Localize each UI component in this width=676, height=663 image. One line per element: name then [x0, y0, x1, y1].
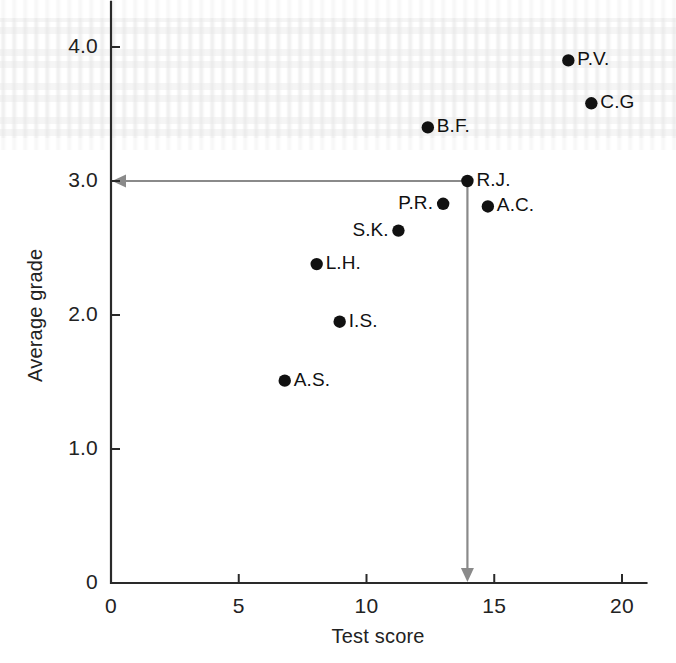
points-layer	[279, 54, 598, 387]
data-point-lh	[310, 258, 322, 270]
point-label-ac: A.C.	[497, 194, 534, 216]
x-tick-label-0: 0	[105, 594, 117, 618]
point-label-bf: B.F.	[437, 115, 470, 137]
scatter-chart: P.V.C.GB.F.R.J.A.C.P.R.S.K.L.H.I.S.A.S. …	[0, 0, 676, 663]
data-point-pv	[562, 54, 574, 66]
point-label-pr: P.R.	[398, 192, 433, 214]
x-tick-label-3: 15	[482, 594, 506, 618]
point-label-rj: R.J.	[476, 169, 510, 191]
y-tick-label-4: 4.0	[0, 34, 98, 58]
y-tick-label-1: 1.0	[0, 436, 98, 460]
x-tick-label-1: 5	[233, 594, 245, 618]
point-label-is: I.S.	[349, 310, 378, 332]
data-point-bf	[422, 121, 434, 133]
data-point-rj	[461, 175, 473, 187]
x-tick-label-4: 20	[610, 594, 634, 618]
data-point-ac	[482, 200, 494, 212]
point-label-pv: P.V.	[577, 48, 609, 70]
data-point-sk	[392, 224, 404, 236]
axis-lines	[111, 1, 648, 583]
data-point-is	[333, 316, 345, 328]
point-label-as: A.S.	[294, 369, 330, 391]
y-tick-label-0: 0	[0, 570, 98, 594]
y-tick-label-3: 3.0	[0, 168, 98, 192]
x-axis-title: Test score	[332, 625, 425, 648]
axes-layer	[111, 1, 648, 583]
point-label-sk: S.K.	[352, 219, 388, 241]
data-point-as	[279, 374, 291, 386]
point-label-lh: L.H.	[326, 252, 361, 274]
x-tick-label-2: 10	[355, 594, 379, 618]
plot-canvas	[0, 0, 676, 663]
vertical-guide-arrow	[461, 181, 474, 582]
horizontal-guide-arrow	[112, 175, 467, 188]
point-label-cg: C.G	[600, 91, 634, 113]
y-tick-label-2: 2.0	[0, 302, 98, 326]
data-point-pr	[437, 198, 449, 210]
vertical-guide-arrow-head	[461, 568, 474, 582]
data-point-cg	[585, 97, 597, 109]
y-axis-title: Average grade	[24, 248, 47, 381]
